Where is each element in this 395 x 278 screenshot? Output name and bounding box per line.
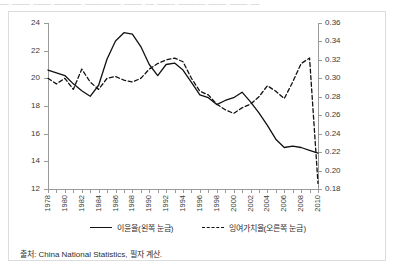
right-tick <box>318 78 322 79</box>
x-axis-tick-label: 2008 <box>297 195 305 212</box>
x-axis-tick-label: 1994 <box>179 195 187 212</box>
x-tick <box>149 189 150 193</box>
legend-label-profit-rate: 이윤율(왼쪽 눈금) <box>117 222 174 233</box>
x-tick <box>284 189 285 193</box>
x-axis-tick-label: 2010 <box>314 195 322 212</box>
x-axis-tick-label: 2000 <box>230 195 238 212</box>
right-tick <box>318 60 322 61</box>
right-axis-line <box>318 23 319 189</box>
x-tick <box>141 189 142 193</box>
left-axis-tick-label: 12 <box>14 185 40 193</box>
legend-item-surplus-value-rate: 잉여가치율(오른쪽 눈금) <box>202 222 307 233</box>
clipped-title-text: — —— —— ——— ———— —— — —— ——— —— —— — <box>0 0 395 9</box>
x-tick <box>208 189 209 193</box>
left-axis-tick-label: 20 <box>14 74 40 82</box>
legend-swatch-dashed-icon <box>202 227 224 228</box>
plot-region: 12141618202224 0.180.200.220.240.260.280… <box>9 12 387 217</box>
x-tick <box>90 189 91 193</box>
data-plot-area <box>48 23 318 189</box>
source-note: 출처: China National Statistics, 필자 계산. <box>8 249 386 261</box>
right-tick <box>318 115 322 116</box>
x-tick <box>225 189 226 193</box>
right-tick <box>318 171 322 172</box>
x-tick <box>183 189 184 193</box>
x-tick <box>217 189 218 193</box>
chart-figure: — —— —— ——— ———— —— — —— ——— —— —— — 121… <box>0 0 395 278</box>
x-axis-tick-label: 1996 <box>196 195 204 212</box>
legend-swatch-solid-icon <box>90 227 112 228</box>
x-tick <box>48 189 49 193</box>
x-tick <box>310 189 311 193</box>
x-axis-tick-label: 2006 <box>280 195 288 212</box>
x-tick <box>65 189 66 193</box>
x-tick <box>276 189 277 193</box>
x-tick <box>107 189 108 193</box>
x-tick <box>234 189 235 193</box>
x-tick <box>158 189 159 193</box>
left-axis-tick-label: 18 <box>14 102 40 110</box>
x-axis-tick-label: 1984 <box>95 195 103 212</box>
right-axis-tick-label: 0.34 <box>325 37 353 45</box>
x-tick <box>99 189 100 193</box>
chart-legend: 이윤율(왼쪽 눈금) 잉여가치율(오른쪽 눈금) <box>9 219 387 235</box>
x-tick <box>242 189 243 193</box>
x-axis-tick-label: 1988 <box>128 195 136 212</box>
x-axis-tick-label: 1998 <box>213 195 221 212</box>
x-tick <box>267 189 268 193</box>
right-axis-tick-label: 0.32 <box>325 56 353 64</box>
x-tick <box>132 189 133 193</box>
right-tick <box>318 97 322 98</box>
x-tick <box>259 189 260 193</box>
right-tick <box>318 23 322 24</box>
right-axis-tick-label: 0.22 <box>325 148 353 156</box>
x-axis-tick-label: 1980 <box>61 195 69 212</box>
left-axis-tick-label: 16 <box>14 130 40 138</box>
x-tick <box>191 189 192 193</box>
right-axis-tick-label: 0.26 <box>325 111 353 119</box>
x-tick <box>251 189 252 193</box>
x-tick <box>200 189 201 193</box>
series-line-surplus-value-rate <box>48 58 318 183</box>
series-lines <box>48 23 318 189</box>
right-axis-tick-label: 0.18 <box>325 185 353 193</box>
x-tick <box>301 189 302 193</box>
right-axis-tick-label: 0.28 <box>325 93 353 101</box>
x-tick <box>293 189 294 193</box>
x-axis-tick-label: 1978 <box>44 195 52 212</box>
left-axis-tick-label: 14 <box>14 157 40 165</box>
x-tick <box>73 189 74 193</box>
x-axis-tick-label: 1986 <box>112 195 120 212</box>
x-tick <box>318 189 319 193</box>
right-tick <box>318 134 322 135</box>
x-tick <box>124 189 125 193</box>
x-axis-tick-label: 1982 <box>78 195 86 212</box>
right-tick <box>318 41 322 42</box>
x-axis-tick-label: 2002 <box>247 195 255 212</box>
right-axis-tick-label: 0.36 <box>325 19 353 27</box>
x-axis-tick-label: 1992 <box>162 195 170 212</box>
x-tick <box>82 189 83 193</box>
right-axis-tick-label: 0.30 <box>325 74 353 82</box>
legend-label-surplus-value-rate: 잉여가치율(오른쪽 눈금) <box>229 222 307 233</box>
right-axis-tick-label: 0.24 <box>325 130 353 138</box>
left-axis-tick-label: 24 <box>14 19 40 27</box>
x-tick <box>175 189 176 193</box>
right-axis-tick-label: 0.20 <box>325 167 353 175</box>
x-tick <box>166 189 167 193</box>
left-axis-tick-label: 22 <box>14 47 40 55</box>
legend-item-profit-rate: 이윤율(왼쪽 눈금) <box>90 222 174 233</box>
x-axis-tick-label: 1990 <box>145 195 153 212</box>
x-tick <box>56 189 57 193</box>
x-tick <box>116 189 117 193</box>
figure-border: 12141618202224 0.180.200.220.240.260.280… <box>8 11 386 261</box>
x-axis-tick-label: 2004 <box>263 195 271 212</box>
